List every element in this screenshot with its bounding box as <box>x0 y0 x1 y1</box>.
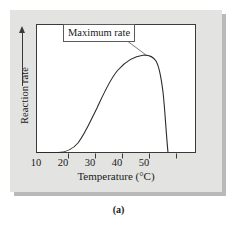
x-tick-label-30: 30 <box>78 157 102 168</box>
x-tick-label-50: 50 <box>132 157 156 168</box>
x-tick-label-40: 40 <box>105 157 129 168</box>
figure-caption: (a) <box>0 204 237 215</box>
y-axis-group: Reaction rate <box>14 28 34 148</box>
x-axis-tick-labels: 10 20 30 40 50 <box>36 157 196 169</box>
x-tick-label-10: 10 <box>24 157 48 168</box>
plot-frame <box>36 24 196 153</box>
x-tick-label-20: 20 <box>51 157 75 168</box>
maximum-rate-annotation: Maximum rate <box>63 24 135 42</box>
x-axis-label: Temperature (°C) <box>36 170 196 182</box>
y-axis-label: Reaction rate <box>19 60 30 132</box>
figure-container: Reaction rate 10 20 30 40 50 Temperature… <box>0 0 237 231</box>
